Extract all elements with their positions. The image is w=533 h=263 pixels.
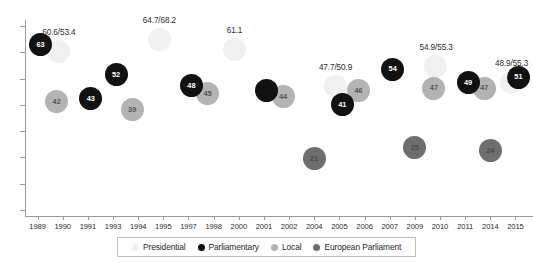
bubble-value-label: 21 [310,155,318,162]
data-bubble: 43 [79,87,102,110]
bubble-annotation: 64.7/68.2 [143,16,176,25]
bubble-value-label: 54 [389,65,397,72]
bubble-chart: 1989199019911993199419951997199820002001… [0,0,533,263]
data-bubble: 24 [479,139,502,162]
legend-swatch-icon [132,244,139,251]
y-axis-tick [20,210,26,211]
data-bubble [424,55,447,78]
data-bubble: 42 [45,90,68,113]
bubble-value-label: 49 [464,79,472,86]
y-axis-tick [20,52,26,53]
bubble-annotation: 60.6/53.4 [42,28,75,37]
y-axis-tick [20,184,26,185]
x-axis-tick [440,216,441,220]
bubble-value-label: 42 [53,98,61,105]
x-axis-tick [138,216,139,220]
bubble-value-label: 44 [279,93,287,100]
legend-label: European Parliament [324,242,401,252]
legend-label: Local [282,242,302,252]
x-axis-tick [63,216,64,220]
x-axis-tick [490,216,491,220]
data-bubble: 25 [403,136,426,159]
bubble-value-label: 25 [411,144,419,151]
bubble-value-label: 43 [87,95,95,102]
data-bubble [223,38,246,61]
x-axis-tick [339,216,340,220]
legend-swatch-icon [271,244,278,251]
x-axis-tick [264,216,265,220]
bubble-value-label: 47 [480,84,488,91]
data-bubble [148,28,171,51]
bubble-value-label: 52 [112,71,120,78]
legend-item-local[interactable]: Local [271,242,302,252]
x-axis-tick [390,216,391,220]
bubble-value-label: 47 [430,84,438,91]
data-bubble: 41 [331,93,354,116]
legend-item-presidential[interactable]: Presidential [132,242,186,252]
y-axis-tick [20,26,26,27]
legend-swatch-icon [198,244,205,251]
y-axis-tick [20,79,26,80]
x-axis-tick [113,216,114,220]
x-axis-tick-label: 2015 [500,222,530,231]
x-axis-tick [465,216,466,220]
bubble-annotation: 61.1 [227,26,243,35]
data-bubble: 51 [507,66,530,89]
x-axis-tick [515,216,516,220]
legend-label: Presidential [143,242,186,252]
x-axis-tick [214,216,215,220]
x-axis-tick [365,216,366,220]
x-axis-tick [314,216,315,220]
y-axis-tick [20,131,26,132]
bubble-value-label: 41 [338,101,346,108]
x-axis-tick [88,216,89,220]
data-bubble: 54 [381,58,404,81]
y-axis-tick [20,105,26,106]
legend-item-parliamentary[interactable]: Parliamentary [198,242,259,252]
bubble-value-label: 24 [486,147,494,154]
y-axis-line [25,20,26,216]
x-axis-tick [38,216,39,220]
bubble-value-label: 46 [354,87,362,94]
bubble-value-label: 51 [514,73,522,80]
legend-label: Parliamentary [209,242,259,252]
plot-area: 1989199019911993199419951997199820002001… [0,0,533,263]
legend-swatch-icon [313,244,320,251]
data-bubble: 21 [303,147,326,170]
x-axis-tick [239,216,240,220]
x-axis-tick [289,216,290,220]
legend-item-european-parliament[interactable]: European Parliament [313,242,401,252]
data-bubble: 52 [105,63,128,86]
x-axis-tick [188,216,189,220]
data-bubble: 48 [180,74,203,97]
bubble-value-label: 39 [128,106,136,113]
bubble-value-label: 45 [204,90,212,97]
bubble-value-label: 48 [187,82,195,89]
data-bubble: 47 [422,77,445,100]
bubble-annotation: 54.9/55.3 [419,43,452,52]
chart-legend: PresidentialParliamentaryLocalEuropean P… [117,237,416,257]
x-axis-tick [163,216,164,220]
data-bubble: 39 [121,98,144,121]
bubble-annotation: 47.7/50.9 [319,63,352,72]
x-axis-line [25,216,533,217]
data-bubble: 49 [457,71,480,94]
bubble-value-label: 63 [36,41,44,48]
y-axis-tick [20,157,26,158]
x-axis-tick [415,216,416,220]
bubble-annotation: 48.9/55.3 [495,59,528,68]
